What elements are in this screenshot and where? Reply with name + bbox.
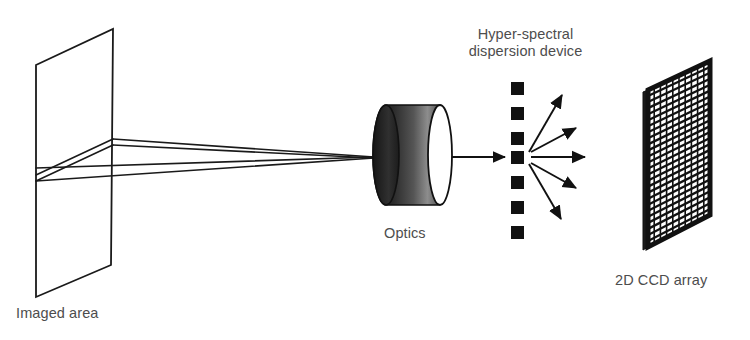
dispersion-device-label: Hyper-spectral dispersion device [448,26,603,60]
dispersed-arrow-down-steep [529,164,561,219]
optics-cylinder [373,105,452,205]
dispersion-square [511,201,524,214]
dispersion-square [511,132,524,145]
dispersion-label-line2: dispersion device [469,43,583,59]
dispersion-device-squares [511,82,524,239]
dispersion-square [511,151,524,164]
ray-upper-2 [113,145,374,158]
diagram-canvas: Hyper-spectral dispersion device Optics … [0,0,750,340]
optics-label: Optics [384,225,426,242]
dispersion-square [511,82,524,95]
diagram-svg [0,0,750,340]
optics-left-cap [373,105,399,205]
imaged-area-label: Imaged area [16,305,99,322]
dispersion-square [511,226,524,239]
ccd-array [643,61,710,250]
ray-upper [113,139,374,157]
dispersed-arrow-up-shallow [531,128,576,152]
ccd-array-label: 2D CCD array [615,272,707,289]
dispersed-beams [529,95,585,219]
optics-right-face [428,105,452,205]
dispersed-arrow-down-shallow [531,163,576,188]
dispersion-square [511,176,524,189]
dispersion-square [511,107,524,120]
dispersion-label-line1: Hyper-spectral [478,26,574,42]
